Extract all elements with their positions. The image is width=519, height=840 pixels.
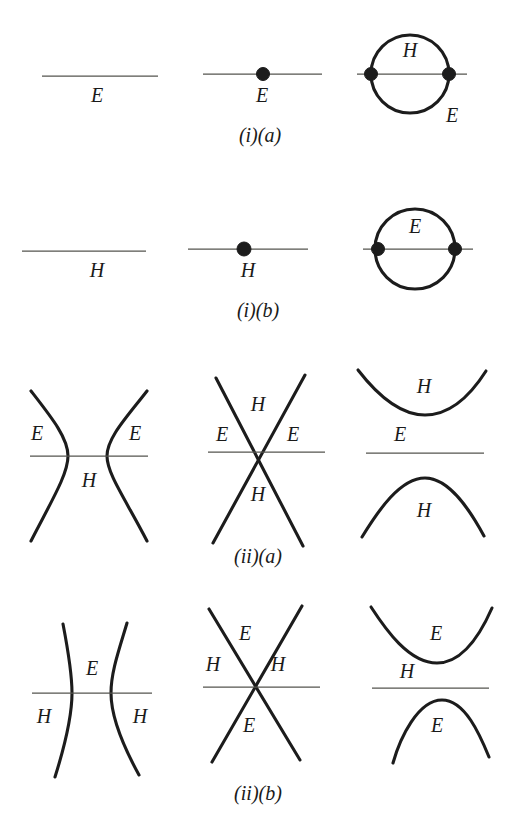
region-label-E-bottom: E	[430, 714, 443, 736]
panel-i-a-3: H E	[357, 35, 467, 126]
region-label-H-left: H	[36, 705, 53, 727]
region-label-H-middle: H	[399, 660, 416, 682]
row-caption-i-a: (i)(a)	[239, 124, 282, 147]
panel-ii-b-2: E H H E	[203, 606, 320, 762]
panel-ii-b-3: E H E	[371, 607, 492, 763]
panel-i-b-3: E	[363, 209, 473, 289]
hyperbola-branch-right	[107, 391, 147, 541]
region-label-H: H	[89, 259, 106, 281]
node-dot-right	[443, 68, 456, 81]
region-label-H: H	[402, 39, 419, 61]
panel-i-a-2: E	[203, 68, 322, 106]
region-label-H-bottom: H	[250, 483, 267, 505]
panel-ii-a-1: E E H	[30, 391, 148, 541]
region-label-E-bottom: E	[242, 714, 255, 736]
row-caption-ii-b: (ii)(b)	[234, 782, 282, 805]
region-label-E-left: E	[30, 422, 43, 444]
panel-ii-b-1: E H H	[32, 623, 152, 777]
region-label-H-left: H	[205, 653, 222, 675]
region-label-H-center: H	[81, 469, 98, 491]
hyperbola-branch-right	[111, 623, 139, 775]
panel-i-a-1: E	[42, 76, 158, 106]
hyperbola-branch-left	[55, 624, 72, 777]
row-caption-ii-a: (ii)(a)	[234, 545, 282, 568]
region-label-E: E	[255, 84, 268, 106]
region-label-H: H	[240, 259, 257, 281]
region-label-E-right: E	[128, 422, 141, 444]
node-dot-left	[372, 243, 385, 256]
region-label-H-right: H	[132, 705, 149, 727]
region-label-E-middle: E	[393, 423, 406, 445]
panel-ii-a-3: H E H	[358, 370, 486, 537]
panel-i-b-2: H	[188, 242, 308, 281]
region-label-E-left: E	[215, 423, 228, 445]
node-dot	[237, 242, 251, 256]
figure-root: E E H E (i)(a) H H	[0, 0, 519, 840]
node-dot-right	[449, 243, 462, 256]
region-label-H-top: H	[250, 393, 267, 415]
region-label-E: E	[445, 104, 458, 126]
node-dot-left	[365, 68, 378, 81]
panel-i-b-1: H	[22, 251, 146, 281]
region-label-E-top: E	[429, 622, 442, 644]
region-label-E-center: E	[85, 657, 98, 679]
region-label-E-top: E	[238, 622, 251, 644]
region-label-H-right: H	[270, 653, 287, 675]
node-dot	[257, 68, 270, 81]
region-label-E: E	[408, 215, 421, 237]
region-label-H-top: H	[416, 375, 433, 397]
region-label-E-right: E	[286, 423, 299, 445]
panel-ii-a-2: H E E H	[208, 375, 325, 546]
region-label-E: E	[90, 84, 103, 106]
conic-classification-figure: E E H E (i)(a) H H	[0, 0, 519, 840]
row-caption-i-b: (i)(b)	[237, 299, 280, 322]
region-label-H-bottom: H	[416, 499, 433, 521]
hyperbola-branch-left	[31, 391, 68, 541]
